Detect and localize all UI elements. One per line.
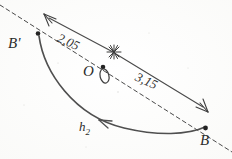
curve-label-subscript: 2 [86, 127, 91, 137]
dot-icon-b-prime [36, 31, 41, 36]
geometry-figure: B' B O 2,05 3,15 h2 [0, 0, 232, 159]
asterisk-icon [107, 45, 121, 59]
diagram-canvas [0, 0, 232, 159]
curve-label-h2: h2 [79, 120, 90, 137]
point-label-o: O [83, 64, 94, 79]
point-label-b: B [200, 133, 209, 148]
dot-icon-b [203, 126, 208, 131]
paper-background [0, 0, 232, 159]
point-label-b-prime: B' [8, 36, 20, 51]
